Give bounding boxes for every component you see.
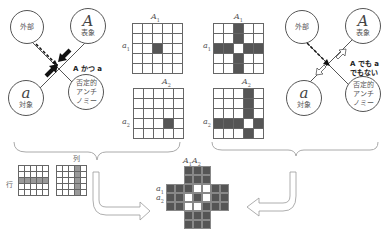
grid-cell	[202, 175, 211, 184]
grid-cell	[220, 184, 229, 193]
grid-cell	[193, 220, 202, 229]
grid-cell	[220, 193, 229, 202]
grid-cell	[193, 211, 202, 220]
row-label: 行	[6, 179, 13, 189]
combined-row-label-2: a2	[156, 193, 164, 204]
combined-col-label: A1A2	[183, 156, 201, 167]
grid-cell	[211, 202, 220, 211]
grid-cell	[166, 193, 175, 202]
grid-cell	[193, 175, 202, 184]
grid-cell	[184, 166, 193, 175]
grid-cell	[193, 193, 202, 202]
grid-cell	[166, 184, 175, 193]
column-example-grid	[56, 165, 87, 196]
grid-cell	[184, 211, 193, 220]
grid-cell	[211, 193, 220, 202]
grid-cell	[193, 184, 202, 193]
grid-cell	[184, 202, 193, 211]
grid-cell	[220, 202, 229, 211]
grid-cell	[184, 193, 193, 202]
grid-cell	[81, 190, 87, 196]
grid-cell	[175, 193, 184, 202]
grid-cell	[175, 184, 184, 193]
grid-cell	[184, 184, 193, 193]
row-example-grid	[18, 165, 49, 196]
grid-cell	[175, 202, 184, 211]
grid-cell	[202, 166, 211, 175]
grid-cell	[202, 184, 211, 193]
grid-cell	[193, 166, 202, 175]
grid-cell	[202, 220, 211, 229]
grid-cell	[184, 220, 193, 229]
grid-cell	[202, 193, 211, 202]
grid-cell	[184, 175, 193, 184]
grid-cell	[202, 202, 211, 211]
grid-cell	[43, 190, 49, 196]
grid-cell	[211, 184, 220, 193]
grid-cell	[166, 202, 175, 211]
grid-cell	[193, 202, 202, 211]
column-label: 列	[73, 153, 80, 163]
label-sub: 2	[161, 198, 164, 204]
grid-cell	[202, 211, 211, 220]
